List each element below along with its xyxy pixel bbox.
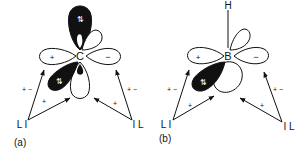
electron-pair-top-a: ⇅ [77,15,84,24]
open-lobe-left [40,48,77,64]
open-lobe-right [86,48,121,64]
ligand-right-a: I L [132,119,144,130]
center-atom-b: B [224,50,231,62]
left-lobe-sign-a: + [50,53,55,62]
ligand-left-a: L I [17,119,28,130]
sign-right-upper-a: + − [127,86,137,93]
orbital-diagram: C + − ⇅ ⇅ + − + + − + L I I L (a) H B + … [0,0,307,155]
electron-pair-lower-b: ⇅ [200,78,207,87]
ligand-left-b: L I [161,119,172,130]
caption-a: (a) [14,137,26,148]
right-lobe-sign-b: − [253,52,258,62]
open-lobe-right-b [234,47,269,63]
open-lobe-left-b [188,47,225,63]
sign-right-upper-b: + − [273,86,283,93]
sign-left-upper-a: + − [22,86,32,93]
sign-left-lower-a: + [42,98,46,105]
sign-right-lower-b: + [260,102,264,109]
center-atom-a: C [76,50,84,62]
substituent-h: H [224,0,231,11]
electron-pair-lower-a: ⇅ [56,77,63,86]
sign-left-upper-b: + − [167,86,177,93]
open-lobe-upper-right-b [230,29,250,50]
arrow-right-upper-b [264,72,282,122]
right-lobe-sign-a: − [105,52,110,62]
panel-b: H B + − ⇅ + − + + − + L I I L (b) [159,0,295,144]
panel-a: C + − ⇅ ⇅ + − + + − + L I I L (a) [14,6,144,148]
sign-right-lower-a: + [113,100,117,107]
sign-left-lower-b: + [188,102,192,109]
left-lobe-sign-b: + [196,53,201,62]
ligand-right-b: I L [283,121,295,132]
caption-b: (b) [159,133,171,144]
